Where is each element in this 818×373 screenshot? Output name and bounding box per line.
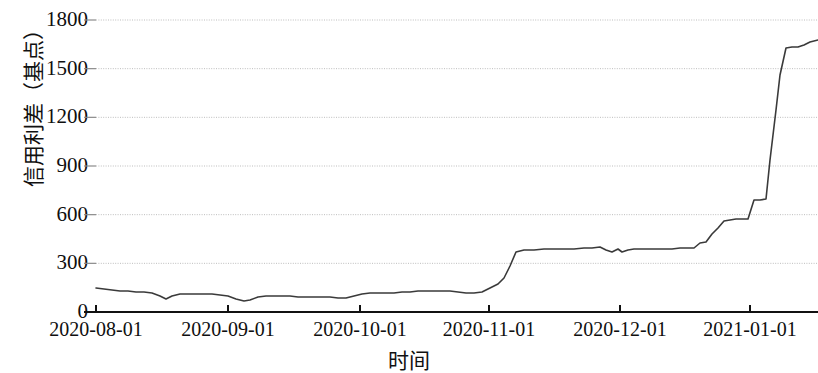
x-tick-label: 2020-12-01 [555,318,685,340]
data-series-line [96,40,818,301]
x-tick-label: 2020-10-01 [295,318,425,340]
x-tick-label: 2021-01-01 [685,318,815,340]
x-tick-label: 2020-09-01 [163,318,293,340]
x-tick-label: 2020-08-01 [31,318,161,340]
series-credit-spread [96,40,818,301]
x-axis-title: 时间 [0,344,818,373]
credit-spread-line-chart: 信用利差（基点） 0300600900120015001800 2020-08-… [0,0,818,373]
x-tick-label: 2020-11-01 [424,318,554,340]
gridlines [96,20,818,263]
axis-lines [84,20,818,312]
